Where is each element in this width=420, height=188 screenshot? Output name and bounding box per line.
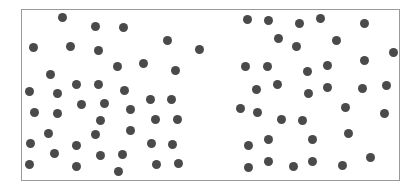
dot [152, 160, 161, 169]
dot [273, 80, 282, 89]
dot [126, 126, 135, 135]
dot [236, 104, 245, 113]
dot [292, 42, 301, 51]
dot [91, 22, 100, 31]
dot [308, 157, 317, 166]
dot [66, 42, 75, 51]
dot [195, 45, 204, 54]
dot [96, 151, 105, 160]
dot [72, 80, 81, 89]
dot [114, 167, 123, 176]
dot [382, 81, 391, 90]
dot [174, 159, 183, 168]
dot [147, 139, 156, 148]
dot [323, 61, 332, 70]
dot [77, 100, 86, 109]
dot [58, 13, 67, 22]
dot [304, 89, 313, 98]
dot [118, 150, 127, 159]
dot-field [0, 0, 420, 188]
dot [241, 62, 250, 71]
dot [139, 59, 148, 68]
dot [29, 43, 38, 52]
dot [96, 116, 105, 125]
dot [146, 95, 155, 104]
dot [308, 135, 317, 144]
dot [30, 108, 39, 117]
dot [277, 115, 286, 124]
dot [341, 103, 350, 112]
dot [53, 109, 62, 118]
dot [94, 80, 103, 89]
dot [244, 141, 253, 150]
dot [253, 108, 262, 117]
dot [298, 116, 307, 125]
dot [244, 163, 253, 172]
dot [26, 139, 35, 148]
dot [360, 19, 369, 28]
dot [295, 19, 304, 28]
dot [358, 84, 367, 93]
dot [50, 149, 59, 158]
dot [389, 48, 398, 57]
dot [113, 62, 122, 71]
dot [91, 130, 100, 139]
dot [323, 83, 332, 92]
dot [46, 70, 55, 79]
dot [316, 14, 325, 23]
dot [332, 36, 341, 45]
dot [119, 23, 128, 32]
dot [120, 86, 129, 95]
dot [167, 95, 176, 104]
dot [72, 162, 81, 171]
dot [25, 87, 34, 96]
dot [274, 34, 283, 43]
dot [25, 160, 34, 169]
dot [264, 157, 273, 166]
dot [100, 99, 109, 108]
dot [289, 162, 298, 171]
dot [151, 115, 160, 124]
dot [344, 129, 353, 138]
dot [243, 15, 252, 24]
dot [163, 36, 172, 45]
dot [366, 153, 375, 162]
dot [171, 66, 180, 75]
dot [126, 105, 135, 114]
dot [168, 140, 177, 149]
dot [338, 161, 347, 170]
dot [264, 16, 273, 25]
dot [72, 141, 81, 150]
dot [44, 129, 53, 138]
dot [380, 109, 389, 118]
dot [173, 115, 182, 124]
dot [252, 85, 261, 94]
dot [360, 56, 369, 65]
dot [94, 46, 103, 55]
dot [264, 135, 273, 144]
dot [53, 89, 62, 98]
dot [303, 67, 312, 76]
dot [263, 62, 272, 71]
